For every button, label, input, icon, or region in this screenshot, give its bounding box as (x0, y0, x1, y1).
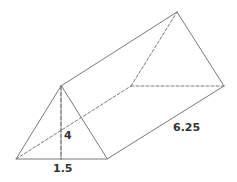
triangular-prism-diagram: 4 1.5 6.25 (0, 0, 237, 182)
top-ridge-edge (61, 12, 177, 86)
base-label: 1.5 (53, 163, 73, 174)
back-right-slant-edge (177, 12, 224, 86)
height-label: 4 (64, 130, 72, 141)
hidden-bottom-left-edge (16, 86, 131, 159)
bottom-right-edge (107, 86, 224, 159)
prism-drawing (0, 0, 237, 182)
length-label: 6.25 (173, 122, 200, 133)
hidden-back-left-slant-edge (131, 12, 177, 86)
